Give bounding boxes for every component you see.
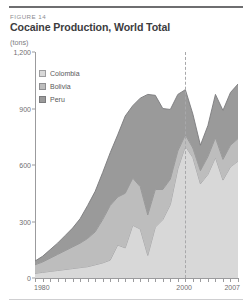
- x-axis-tick-mark: [118, 279, 119, 282]
- x-axis-tick-mark: [110, 279, 111, 282]
- figure-title: Cocaine Production, World Total: [10, 21, 170, 33]
- x-axis-tick-mark: [215, 279, 216, 282]
- y-axis-tick-label: 0: [0, 275, 31, 282]
- x-axis-tick-mark: [223, 279, 224, 282]
- x-axis-tick-mark: [125, 279, 126, 282]
- x-axis-tick-mark: [80, 279, 81, 282]
- legend-swatch-peru: [39, 96, 46, 103]
- reference-line-2000: [185, 52, 186, 278]
- x-axis-tick-mark: [193, 279, 194, 282]
- x-axis-tick-mark: [163, 279, 164, 282]
- x-axis-tick-mark: [230, 279, 231, 282]
- header-rule: [9, 6, 243, 8]
- legend-swatch-colombia: [39, 70, 46, 77]
- footer-rule: [9, 299, 243, 300]
- y-axis-tick-label: 300: [0, 218, 31, 225]
- x-axis-tick-label: 1980: [34, 284, 50, 291]
- legend-item-bolivia: Bolivia: [39, 81, 80, 92]
- x-axis-tick-mark: [43, 279, 44, 282]
- y-axis-tick-label: 600: [0, 162, 31, 169]
- x-axis-tick-label: 2007: [224, 284, 240, 291]
- x-axis-tick-mark: [58, 279, 59, 282]
- y-axis-tick-mark: [32, 52, 35, 53]
- x-axis-tick-mark: [88, 279, 89, 282]
- x-axis-tick-mark: [133, 279, 134, 282]
- x-axis-tick-mark: [208, 279, 209, 282]
- figure-number-label: FIGURE 14: [10, 13, 46, 20]
- x-axis-tick-mark: [140, 279, 141, 282]
- legend-swatch-bolivia: [39, 83, 46, 90]
- figure-cocaine-production: FIGURE 14 Cocaine Production, World Tota…: [0, 0, 252, 308]
- x-axis-tick-mark: [95, 279, 96, 282]
- x-axis-tick-mark: [200, 279, 201, 282]
- y-axis-tick-mark: [32, 221, 35, 222]
- legend-label-bolivia: Bolivia: [50, 83, 71, 90]
- y-axis-tick-mark: [32, 165, 35, 166]
- y-axis-tick-label: 900: [0, 105, 31, 112]
- legend-label-colombia: Colombia: [50, 70, 80, 77]
- x-axis-tick-mark: [170, 279, 171, 282]
- y-axis-tick-mark: [32, 108, 35, 109]
- x-axis-tick-mark: [148, 279, 149, 282]
- legend-label-peru: Peru: [50, 96, 65, 103]
- legend-item-peru: Peru: [39, 94, 80, 105]
- x-axis-tick-label: 2000: [176, 284, 192, 291]
- x-axis-tick-mark: [185, 279, 186, 282]
- x-axis-tick-mark: [238, 279, 239, 282]
- x-axis-tick-mark: [178, 279, 179, 282]
- x-axis-tick-mark: [50, 279, 51, 282]
- x-axis-tick-mark: [65, 279, 66, 282]
- y-axis-tick-label: 1,200: [0, 49, 31, 56]
- legend-item-colombia: Colombia: [39, 68, 80, 79]
- x-axis-tick-mark: [155, 279, 156, 282]
- x-axis-tick-mark: [103, 279, 104, 282]
- chart-legend: Colombia Bolivia Peru: [39, 68, 80, 107]
- x-axis-tick-mark: [35, 279, 36, 282]
- figure-units-label: (tons): [10, 38, 28, 47]
- x-axis-tick-mark: [73, 279, 74, 282]
